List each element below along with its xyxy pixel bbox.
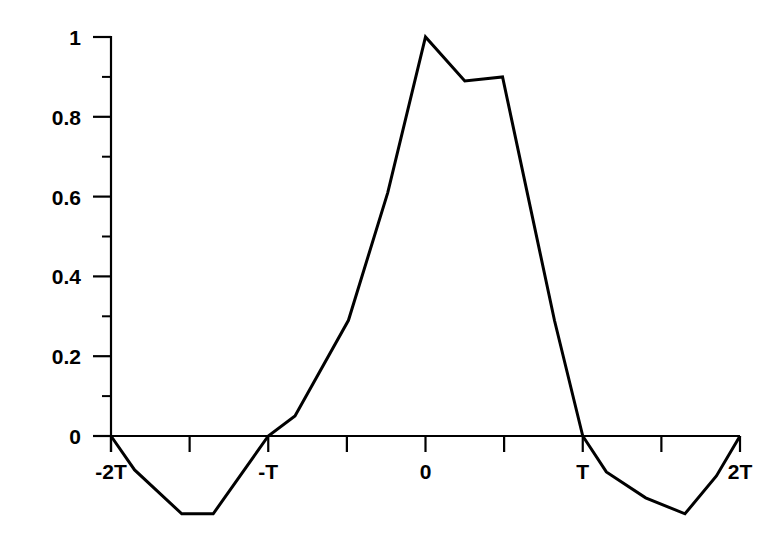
y-tick-label: 0.2	[52, 345, 81, 368]
y-tick-label: 1	[69, 26, 81, 49]
x-tick-label: -2T	[95, 460, 127, 483]
x-axis-ticks	[111, 436, 740, 452]
chart-container: 00.20.40.60.81 -2T-T0T2T	[0, 0, 779, 541]
x-tick-label: 2T	[728, 460, 753, 483]
y-tick-label: 0.6	[52, 186, 81, 209]
x-tick-label: 0	[420, 460, 432, 483]
y-axis-minor-ticks	[102, 77, 111, 396]
y-tick-label: 0.4	[52, 265, 82, 288]
y-axis-tick-labels: 00.20.40.60.81	[52, 26, 82, 448]
x-tick-label: T	[576, 460, 589, 483]
y-tick-label: 0	[69, 425, 81, 448]
x-axis-tick-labels: -2T-T0T2T	[95, 460, 752, 483]
x-tick-label: -T	[258, 460, 278, 483]
y-tick-label: 0.8	[52, 106, 82, 129]
pulse-waveform-chart: 00.20.40.60.81 -2T-T0T2T	[0, 0, 779, 541]
